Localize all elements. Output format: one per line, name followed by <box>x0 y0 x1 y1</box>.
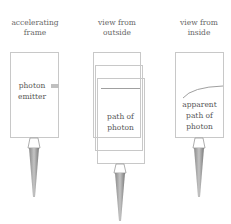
caption-line: accelerating <box>4 18 66 28</box>
rocket-thruster-icon <box>28 138 40 197</box>
label-line: path of <box>176 110 223 121</box>
label-line: apparent <box>176 99 223 110</box>
label-line: photon <box>97 122 144 133</box>
accelerating-frame-panel <box>11 53 60 198</box>
caption-line: inside <box>168 28 230 38</box>
label-line: emitter <box>10 91 54 102</box>
rocket-thruster-icon <box>193 138 205 197</box>
label-line: photon <box>10 80 54 91</box>
label-path-of-photon: path of photon <box>97 111 144 133</box>
label-line: photon <box>176 121 223 132</box>
view-from-outside-panel <box>94 53 145 222</box>
label-line: path of <box>97 111 144 122</box>
caption-view-from-outside: view from outside <box>86 18 148 38</box>
caption-line: view from <box>86 18 148 28</box>
caption-line: view from <box>168 18 230 28</box>
caption-line: outside <box>86 28 148 38</box>
rocket-thruster-icon <box>114 164 126 221</box>
caption-view-from-inside: view from inside <box>168 18 230 38</box>
caption-accelerating-frame: accelerating frame <box>4 18 66 38</box>
label-apparent-path-of-photon: apparent path of photon <box>176 99 223 132</box>
label-photon-emitter: photon emitter <box>10 80 54 102</box>
caption-line: frame <box>4 28 66 38</box>
